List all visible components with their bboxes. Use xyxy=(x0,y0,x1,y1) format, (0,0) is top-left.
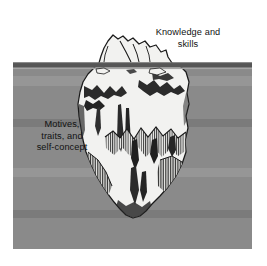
iceberg-diagram: Knowledge and skills Motives, traits, an… xyxy=(0,0,267,266)
motives-traits-self-concept-label: Motives, traits, and self-concept xyxy=(26,119,98,154)
waterline xyxy=(13,62,252,69)
knowledge-and-skills-label: Knowledge and skills xyxy=(146,27,230,50)
